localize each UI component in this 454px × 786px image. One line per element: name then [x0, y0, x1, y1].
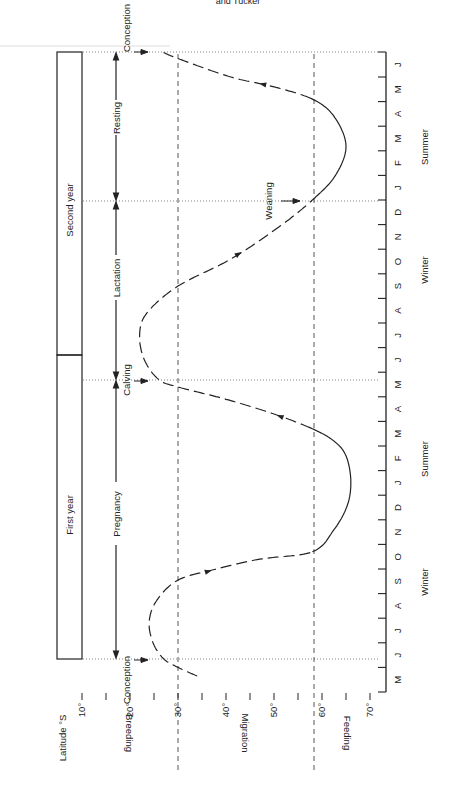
month-tick-label: J [392, 628, 403, 633]
winter-1-label: Winter [419, 568, 430, 595]
direction-arrow-icon [204, 568, 212, 575]
month-tick-label: M [392, 430, 403, 438]
month-axis: MJJASONDJFMAMJJASONDJFMAMJ [378, 52, 403, 692]
summer-2-label: Summer [419, 129, 430, 165]
feeding-zone-label: Feeding [342, 716, 353, 750]
weaning-label: Weaning [263, 182, 274, 219]
month-tick-label: A [392, 110, 403, 117]
arrow-down-icon [114, 193, 119, 200]
latitude-tick-label: 60° [316, 703, 327, 718]
running-head: and Tucker [216, 0, 261, 6]
latitude-axis-label: Latitude °S [57, 715, 68, 762]
month-tick-label: F [392, 455, 403, 461]
zone-boundaries [178, 54, 314, 774]
conception-2-label: Conception [121, 4, 132, 52]
month-tick-label: N [392, 529, 403, 536]
resting-label: Resting [111, 102, 122, 134]
second-year-label: Second year [64, 183, 75, 236]
month-tick-label: J [392, 357, 403, 362]
direction-arrow-icon [259, 81, 267, 88]
month-tick-label: S [392, 283, 403, 289]
month-tick-label: M [392, 134, 403, 142]
month-tick-label: M [392, 676, 403, 684]
lactation-label: Lactation [111, 259, 122, 298]
month-tick-label: D [392, 209, 403, 216]
summer-1-label: Summer [419, 441, 430, 477]
month-tick-label: J [392, 185, 403, 190]
arrow-right-icon [141, 658, 148, 663]
event-pointers [134, 50, 300, 663]
arrow-up-icon [114, 202, 119, 209]
latitude-tick-label: 30° [172, 703, 183, 718]
phase-arrows [114, 53, 119, 658]
year-bar: Second year First year [57, 52, 82, 659]
first-year-label: First year [64, 495, 75, 535]
month-tick-label: O [392, 553, 403, 560]
migration-zone-label: Migration [240, 713, 251, 752]
arrow-right-icon [141, 50, 148, 55]
arrow-down-icon [114, 651, 119, 658]
month-tick-label: O [392, 258, 403, 265]
latitude-curve [140, 52, 351, 676]
month-tick-label: F [392, 160, 403, 166]
month-tick-label: A [392, 602, 403, 609]
month-tick-label: N [392, 233, 403, 240]
pregnancy-label: Pregnancy [111, 491, 122, 537]
month-tick-label: J [392, 62, 403, 67]
event-lines [83, 52, 378, 659]
latitude-tick-label: 10° [76, 703, 87, 718]
month-tick-label: J [392, 333, 403, 338]
breeding-zone-label: Breeding [124, 714, 135, 752]
month-tick-label: M [392, 380, 403, 388]
month-tick-label: A [392, 405, 403, 412]
calving-label: Calving [121, 364, 132, 396]
month-tick-label: S [392, 578, 403, 584]
month-tick-label: J [392, 480, 403, 485]
winter-2-label: Winter [419, 256, 430, 283]
month-tick-label: J [392, 652, 403, 657]
arrow-down-icon [114, 372, 119, 379]
month-tick-label: D [392, 504, 403, 511]
arrow-up-icon [114, 381, 119, 388]
latitude-tick-label: 50° [268, 703, 279, 718]
arrow-right-icon [293, 199, 300, 204]
arrow-up-icon [114, 53, 119, 60]
whale-migration-chart: and Tucker Second year First year [0, 0, 454, 786]
arrow-right-icon [141, 379, 148, 384]
month-tick-label: A [392, 307, 403, 314]
direction-arrow-icon [276, 413, 284, 420]
latitude-tick-label: 40° [220, 703, 231, 718]
latitude-tick-label: 70° [364, 703, 375, 718]
month-tick-label: M [392, 85, 403, 93]
